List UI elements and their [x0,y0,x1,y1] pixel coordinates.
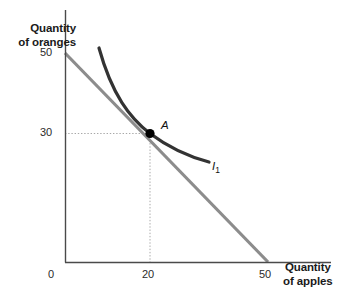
curve-label-subscript: 1 [215,165,220,175]
x-tick-label-50: 50 [259,268,271,281]
point-a-label: A [161,119,169,133]
point-a-marker [145,129,154,138]
y-tick-label-30: 30 [40,126,52,139]
indifference-curve-chart: Quantity of oranges Quantity of apples 5… [0,0,347,299]
x-axis-title: Quantity of apples [283,261,333,288]
x-tick-label-20: 20 [142,268,154,281]
indifference-curve-label: I1 [212,160,220,174]
x-tick-label-0: 0 [48,268,54,281]
y-tick-label-50: 50 [40,46,52,59]
